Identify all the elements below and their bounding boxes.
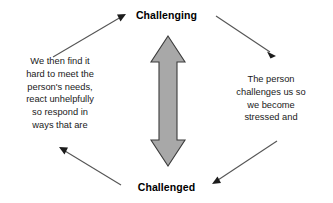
left-text-line: ways that are [6, 119, 114, 132]
node-label-challenged: Challenged [0, 181, 333, 193]
left-text-block: We then find it hard to meet the person'… [6, 55, 114, 132]
left-text-line: react unhelpfully [6, 93, 114, 106]
left-text-line: person's needs, [6, 81, 114, 94]
right-text-block: The person challenges us so we become st… [219, 73, 323, 124]
left-text-line: so respond in [6, 106, 114, 119]
arrow-bottom-to-top-left-icon [59, 147, 121, 185]
cycle-diagram: Challenging Challenged We then find it h… [0, 0, 333, 203]
left-text-line: hard to meet the [6, 68, 114, 81]
double-headed-vertical-arrow-icon [151, 36, 185, 166]
right-text-line: challenges us so [219, 86, 323, 99]
right-text-line: we become [219, 99, 323, 112]
arrow-bottom-right-to-bottom-icon [212, 141, 277, 184]
left-text-line: We then find it [6, 55, 114, 68]
node-label-challenging: Challenging [0, 9, 333, 21]
right-text-line: The person [219, 73, 323, 86]
right-text-line: stressed and [219, 111, 323, 124]
arrow-top-to-bottom-right-icon [216, 16, 276, 59]
